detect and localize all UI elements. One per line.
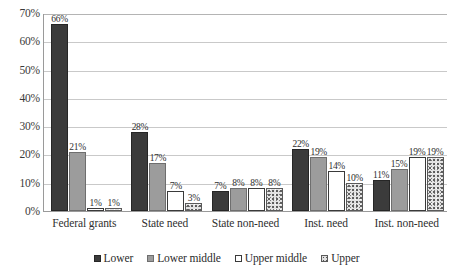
legend-swatch-icon [94, 255, 101, 262]
y-tick-label: 10% [0, 178, 40, 190]
bar-slot: 1% [105, 14, 122, 211]
bar-value-label: 17% [150, 153, 167, 163]
bar-value-label: 66% [51, 14, 68, 24]
y-tick-label: 60% [0, 36, 40, 48]
bar[interactable]: 7% [212, 191, 229, 211]
legend-label: Lower [104, 252, 134, 264]
bar[interactable]: 22% [292, 149, 309, 211]
bar-value-label: 3% [188, 193, 200, 203]
bar[interactable]: 8% [248, 188, 265, 211]
legend-item[interactable]: Lower middle [147, 252, 221, 264]
bar-slot: 19% [310, 14, 327, 211]
x-axis: Federal grantsState needState non-needIn… [44, 216, 447, 230]
x-tick-label: Inst. non-need [366, 216, 447, 230]
bar-value-label: 8% [232, 178, 244, 188]
y-axis: 70%60%50%40%30%20%10%0% [0, 8, 40, 212]
x-tick-label: Federal grants [44, 216, 125, 230]
bar-value-label: 15% [391, 159, 408, 169]
bar-slot: 10% [346, 14, 363, 211]
bar[interactable]: 10% [346, 183, 363, 211]
y-tick-label: 50% [0, 65, 40, 77]
bar-group: 7%8%8%8% [206, 14, 286, 211]
y-tick-label: 40% [0, 93, 40, 105]
bar[interactable]: 3% [185, 203, 202, 211]
bar[interactable]: 28% [131, 132, 148, 211]
x-tick-label: State non-need [205, 216, 286, 230]
bar[interactable]: 8% [266, 188, 283, 211]
grouped-bar-chart: 70%60%50%40%30%20%10%0% 66%21%1%1%28%17%… [0, 0, 453, 280]
bar-slot: 17% [149, 14, 166, 211]
bar-value-label: 22% [292, 139, 309, 149]
bar[interactable]: 19% [427, 157, 444, 211]
bar-slot: 19% [427, 14, 444, 211]
bar-slot: 1% [87, 14, 104, 211]
bar-group: 22%19%14%10% [286, 14, 366, 211]
bar-slot: 14% [328, 14, 345, 211]
legend-item[interactable]: Upper [321, 252, 359, 264]
bar[interactable]: 1% [87, 208, 104, 211]
bar[interactable]: 11% [373, 180, 390, 211]
bar[interactable]: 1% [105, 208, 122, 211]
bar[interactable]: 19% [409, 157, 426, 211]
bar-slot: 11% [373, 14, 390, 211]
bar-slot: 66% [51, 14, 68, 211]
bar-value-label: 19% [310, 147, 327, 157]
bar-value-label: 10% [346, 173, 363, 183]
bar-slot: 15% [391, 14, 408, 211]
bar-value-label: 1% [107, 198, 119, 208]
x-tick-label: Inst. need [286, 216, 367, 230]
bar[interactable]: 7% [167, 191, 184, 211]
bar-slot: 7% [167, 14, 184, 211]
y-tick-label: 0% [0, 206, 40, 218]
bar-group: 66%21%1%1% [45, 14, 125, 211]
y-tick-label: 70% [0, 8, 40, 20]
bar-group: 28%17%7%3% [125, 14, 205, 211]
bar-slot: 3% [185, 14, 202, 211]
legend-swatch-icon [147, 255, 154, 262]
bar[interactable]: 66% [51, 24, 68, 211]
legend-label: Upper middle [245, 252, 307, 264]
bar-slot: 22% [292, 14, 309, 211]
bar[interactable]: 15% [391, 169, 408, 211]
bar-value-label: 7% [170, 181, 182, 191]
bar-slot: 28% [131, 14, 148, 211]
bar-slot: 19% [409, 14, 426, 211]
bar-value-label: 19% [427, 147, 444, 157]
bar[interactable]: 8% [230, 188, 247, 211]
bar-group: 11%15%19%19% [367, 14, 447, 211]
bar-value-label: 19% [409, 147, 426, 157]
bar-value-label: 8% [268, 178, 280, 188]
bar[interactable]: 17% [149, 163, 166, 211]
bar-value-label: 8% [250, 178, 262, 188]
legend-item[interactable]: Upper middle [235, 252, 307, 264]
bar-groups: 66%21%1%1%28%17%7%3%7%8%8%8%22%19%14%10%… [45, 14, 447, 211]
legend-label: Lower middle [157, 252, 221, 264]
bar[interactable]: 19% [310, 157, 327, 211]
bar[interactable]: 21% [69, 152, 86, 211]
bar-slot: 21% [69, 14, 86, 211]
bar-slot: 8% [266, 14, 283, 211]
bar-value-label: 14% [328, 161, 345, 171]
y-tick-label: 20% [0, 149, 40, 161]
bar[interactable]: 14% [328, 171, 345, 211]
plot-area: 66%21%1%1%28%17%7%3%7%8%8%8%22%19%14%10%… [43, 14, 447, 212]
legend-swatch-icon [235, 255, 242, 262]
bar-value-label: 1% [89, 198, 101, 208]
legend-label: Upper [331, 252, 359, 264]
x-tick-label: State need [125, 216, 206, 230]
bar-slot: 8% [248, 14, 265, 211]
legend-swatch-icon [321, 255, 328, 262]
bar-slot: 8% [230, 14, 247, 211]
legend-item[interactable]: Lower [94, 252, 134, 264]
bar-value-label: 21% [69, 142, 86, 152]
bar-slot: 7% [212, 14, 229, 211]
bar-value-label: 7% [214, 181, 226, 191]
y-tick-label: 30% [0, 121, 40, 133]
bar-value-label: 28% [132, 122, 149, 132]
chart-legend: LowerLower middleUpper middleUpper [0, 252, 453, 264]
bar-value-label: 11% [373, 170, 389, 180]
